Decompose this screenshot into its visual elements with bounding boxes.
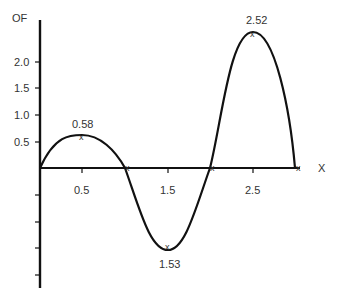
annotation-peak1: 0.58 xyxy=(72,118,93,130)
x-tick-label-0.5: 0.5 xyxy=(74,184,89,196)
marker-root2: x xyxy=(210,163,215,173)
y-tick-label-1.5: 1.5 xyxy=(14,82,29,94)
marker-trough: x xyxy=(165,242,170,252)
marker-peak1: x xyxy=(79,132,84,142)
marker-peak2: x xyxy=(250,29,255,39)
y-tick-label-1.0: 1.0 xyxy=(14,109,29,121)
annotation-trough: 1.53 xyxy=(159,258,180,270)
x-tick-label-1.5: 1.5 xyxy=(160,184,175,196)
data-markers: x x x x x x xyxy=(79,29,301,252)
y-axis-label: OF xyxy=(12,12,28,24)
x-axis-label: X xyxy=(318,162,326,174)
chart-canvas: OF X 2.0 1.5 1.0 0.5 0.5 1.5 2.5 x x x x… xyxy=(0,0,340,306)
marker-root3: x xyxy=(296,163,301,173)
y-tick-label-0.5: 0.5 xyxy=(14,136,29,148)
annotation-peak2: 2.52 xyxy=(246,14,267,26)
marker-root1: x xyxy=(125,163,130,173)
x-tick-label-2.5: 2.5 xyxy=(245,184,260,196)
y-tick-label-2.0: 2.0 xyxy=(14,56,29,68)
